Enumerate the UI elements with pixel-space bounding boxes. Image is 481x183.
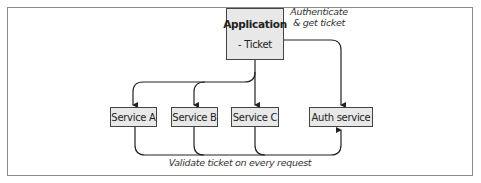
arrow-validate-to-auth bbox=[135, 127, 341, 155]
authenticate-label-line2: & get ticket bbox=[288, 17, 350, 28]
auth-service-node: Auth service bbox=[309, 107, 373, 127]
application-title: Application bbox=[223, 18, 287, 30]
auth-service-label: Auth service bbox=[312, 112, 371, 123]
line-service-b-validate bbox=[194, 127, 204, 155]
validate-label: Validate ticket on every request bbox=[160, 157, 320, 168]
application-node: Application - Ticket bbox=[226, 8, 284, 60]
service-b-label: Service B bbox=[172, 112, 216, 123]
service-a-label: Service A bbox=[111, 112, 155, 123]
service-b-node: Service B bbox=[171, 107, 218, 127]
application-ticket: - Ticket bbox=[238, 39, 272, 50]
service-c-label: Service C bbox=[233, 112, 277, 123]
service-c-node: Service C bbox=[231, 107, 279, 127]
arrow-app-to-auth bbox=[284, 40, 341, 105]
authenticate-label-line1: Authenticate bbox=[288, 6, 350, 17]
service-a-node: Service A bbox=[110, 107, 157, 127]
authenticate-label: Authenticate & get ticket bbox=[288, 6, 350, 28]
arrow-app-to-service-b bbox=[194, 82, 205, 105]
line-service-c-validate bbox=[255, 127, 265, 155]
